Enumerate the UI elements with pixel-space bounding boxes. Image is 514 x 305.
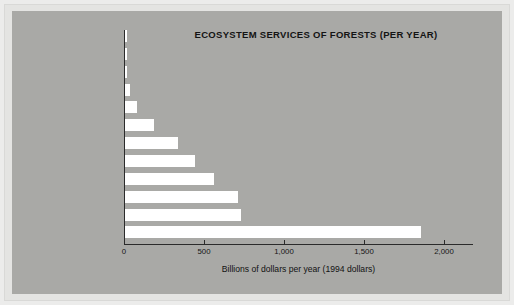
bar <box>125 30 127 42</box>
bar <box>125 226 421 238</box>
x-axis-title: Billions of dollars per year (1994 dolla… <box>124 264 473 274</box>
x-axis-tick-label: 0 <box>122 247 126 256</box>
x-axis-tick <box>364 240 365 244</box>
figure-container: ECOSYSTEM SERVICES OF FORESTS (PER YEAR)… <box>0 0 514 305</box>
x-axis-tick <box>444 240 445 244</box>
x-axis-tick-label: 500 <box>197 247 210 256</box>
bar <box>125 48 127 60</box>
x-axis-tick-label: 2,000 <box>434 247 454 256</box>
x-axis-tick-label: 1,500 <box>354 247 374 256</box>
bar <box>125 155 195 167</box>
x-axis-tick <box>284 240 285 244</box>
bar <box>125 137 178 149</box>
bar <box>125 101 137 113</box>
bar <box>125 66 127 78</box>
x-axis-tick-label: 1,000 <box>274 247 294 256</box>
bar <box>125 173 214 185</box>
bar <box>125 191 238 203</box>
bar <box>125 119 154 131</box>
bar <box>125 209 241 221</box>
x-axis-tick <box>204 240 205 244</box>
bar <box>125 84 130 96</box>
plot-area: Natural pest controlCultural usesDisturb… <box>12 11 502 294</box>
x-axis-line <box>124 244 473 245</box>
chart-panel: ECOSYSTEM SERVICES OF FORESTS (PER YEAR)… <box>12 11 502 294</box>
